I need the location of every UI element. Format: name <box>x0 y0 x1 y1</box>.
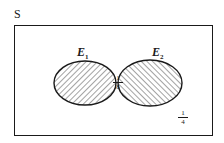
sample-space-label: S <box>14 7 21 22</box>
set-e1-name: E <box>77 45 85 59</box>
venn-diagram <box>0 0 224 143</box>
set-e2-subscript: 2 <box>160 53 164 61</box>
set-e1-subscript: 1 <box>85 53 89 61</box>
intersection-numerator: 1 <box>113 74 123 83</box>
outside-denominator: 4 <box>178 118 188 126</box>
intersection-probability: 1 8 <box>113 74 123 91</box>
outside-probability: 1 4 <box>178 109 188 126</box>
set-e2-name: E <box>152 45 160 59</box>
set-e2-label: E2 <box>152 45 164 61</box>
outside-numerator: 1 <box>178 109 188 118</box>
set-e1-label: E1 <box>77 45 89 61</box>
intersection-denominator: 8 <box>113 83 123 91</box>
